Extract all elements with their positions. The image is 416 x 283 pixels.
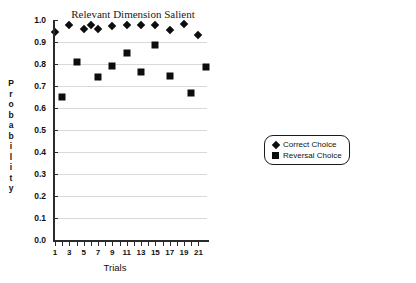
- y-tick: [53, 108, 58, 109]
- x-tick: [105, 241, 106, 246]
- data-point-diamond: [122, 20, 130, 28]
- x-tick: [141, 241, 142, 246]
- x-tick: [155, 241, 156, 246]
- data-point-diamond: [180, 20, 188, 28]
- x-tick: [62, 241, 63, 246]
- x-tick: [55, 241, 56, 246]
- x-tick: [177, 241, 178, 246]
- gridline: [55, 196, 207, 197]
- y-tick: [53, 130, 58, 131]
- x-tick: [69, 241, 70, 246]
- data-point-diamond: [79, 25, 87, 33]
- gridline: [55, 108, 207, 109]
- chart-figure: Probability Relevant Dimension Salient 0…: [0, 0, 416, 283]
- y-tick-label: 0.2: [24, 191, 46, 201]
- y-tick: [53, 174, 58, 175]
- panel-relevant-dimension: Relevant Dimension Salient 0.00.10.20.30…: [0, 0, 215, 283]
- y-tick-label: 0.9: [24, 37, 46, 47]
- x-tick-label: 7: [91, 248, 105, 257]
- data-point-square: [109, 62, 116, 69]
- x-tick: [91, 241, 92, 246]
- x-tick-label: 15: [148, 248, 162, 257]
- data-point-square: [188, 90, 195, 97]
- y-tick-label: 0.4: [24, 147, 46, 157]
- x-tick: [127, 241, 128, 246]
- gridline: [55, 174, 207, 175]
- x-tick-label: 1: [48, 248, 62, 257]
- data-point-diamond: [65, 21, 73, 29]
- plot-area-left: [55, 20, 207, 240]
- x-tick: [198, 241, 199, 246]
- gridline: [55, 86, 207, 87]
- panel-title-left: Relevant Dimension Salient: [58, 8, 208, 20]
- data-point-diamond: [194, 31, 202, 39]
- x-tick-label: 5: [77, 248, 91, 257]
- y-tick: [53, 64, 58, 65]
- x-tick-label: 19: [177, 248, 191, 257]
- x-tick: [112, 241, 113, 246]
- legend-item-correct-choice: Correct Choice: [271, 139, 342, 150]
- y-tick: [53, 86, 58, 87]
- legend-item-reversal-choice: Reversal Choice: [271, 150, 342, 161]
- x-tick: [77, 241, 78, 246]
- data-point-diamond: [108, 22, 116, 30]
- data-point-diamond: [137, 21, 145, 29]
- data-point-square: [123, 49, 130, 56]
- y-tick-label: 0.0: [24, 235, 46, 245]
- x-tick: [84, 241, 85, 246]
- y-tick-label: 1.0: [24, 15, 46, 25]
- x-tick: [148, 241, 149, 246]
- diamond-marker-icon: [271, 142, 280, 148]
- data-point-square: [202, 63, 209, 70]
- x-tick-label: 11: [120, 248, 134, 257]
- data-point-diamond: [94, 25, 102, 33]
- y-tick: [53, 218, 58, 219]
- gridline: [55, 152, 207, 153]
- y-tick-label: 0.3: [24, 169, 46, 179]
- y-tick-label: 0.7: [24, 81, 46, 91]
- x-tick-label: 3: [62, 248, 76, 257]
- x-tick: [170, 241, 171, 246]
- data-point-square: [95, 73, 102, 80]
- data-point-diamond: [165, 26, 173, 34]
- y-tick: [53, 42, 58, 43]
- x-tick: [191, 241, 192, 246]
- x-tick-label: 17: [163, 248, 177, 257]
- x-tick: [163, 241, 164, 246]
- y-tick-label: 0.1: [24, 213, 46, 223]
- data-point-square: [73, 58, 80, 65]
- gridline: [55, 130, 207, 131]
- x-tick: [184, 241, 185, 246]
- y-tick-label: 0.8: [24, 59, 46, 69]
- square-marker-icon: [271, 152, 280, 159]
- gridline: [55, 218, 207, 219]
- chart-legend: Correct Choice Reversal Choice: [264, 135, 350, 165]
- x-tick: [120, 241, 121, 246]
- x-tick-label: 21: [191, 248, 205, 257]
- data-point-square: [59, 94, 66, 101]
- gridline: [55, 42, 207, 43]
- y-tick: [53, 20, 58, 21]
- data-point-diamond: [151, 20, 159, 28]
- legend-label-correct: Correct Choice: [283, 140, 336, 149]
- x-tick-label: 13: [134, 248, 148, 257]
- y-tick-label: 0.5: [24, 125, 46, 135]
- data-point-square: [138, 68, 145, 75]
- y-tick: [53, 196, 58, 197]
- data-point-square: [152, 42, 159, 49]
- legend-label-reversal: Reversal Choice: [283, 151, 342, 160]
- x-tick: [134, 241, 135, 246]
- x-tick: [98, 241, 99, 246]
- x-tick-label: 9: [105, 248, 119, 257]
- y-tick: [53, 152, 58, 153]
- data-point-square: [166, 73, 173, 80]
- y-tick-label: 0.6: [24, 103, 46, 113]
- x-axis-title-left: Trials: [90, 262, 140, 273]
